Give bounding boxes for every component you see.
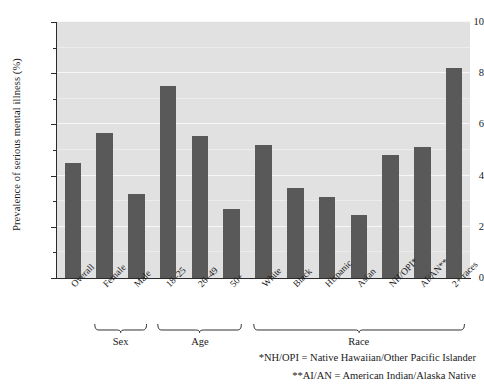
- group-brace: [157, 324, 242, 333]
- y-axis-tick-label: 8: [438, 68, 484, 78]
- bar-series: [57, 22, 470, 278]
- y-axis-tick-label: 6: [438, 119, 484, 129]
- y-axis-tick-label: 4: [438, 171, 484, 181]
- y-axis-tick: [51, 22, 56, 23]
- y-axis-tick-minor: [53, 252, 56, 253]
- footnote-nh-opi: *NH/OPI = Native Hawaiian/Other Pacific …: [259, 352, 476, 363]
- footnote-ai-an: **AI/AN = American Indian/Alaska Native: [292, 370, 476, 381]
- bar: [414, 147, 431, 278]
- y-axis-tick-minor: [53, 201, 56, 202]
- bar: [319, 197, 336, 278]
- group-brace: [94, 324, 147, 333]
- bar: [160, 86, 177, 278]
- y-axis-tick: [51, 227, 56, 228]
- y-axis-tick-minor: [53, 150, 56, 151]
- bar: [255, 145, 272, 278]
- group-brace: [253, 324, 465, 333]
- y-axis-tick-minor: [53, 48, 56, 49]
- bar: [287, 188, 304, 278]
- bar: [192, 136, 209, 278]
- bar: [351, 215, 368, 278]
- bar: [223, 209, 240, 278]
- y-axis-tick: [51, 176, 56, 177]
- bar: [382, 155, 399, 278]
- y-axis-label: Prevalence of serious mental illness (%): [11, 25, 22, 265]
- bar-chart: 0246810 Prevalence of serious mental ill…: [0, 0, 484, 392]
- y-axis-tick-label: 10: [438, 17, 484, 27]
- y-axis-tick: [51, 124, 56, 125]
- y-axis-tick: [51, 278, 56, 279]
- bar: [128, 194, 145, 278]
- plot-area: [57, 22, 470, 278]
- y-axis-tick-minor: [53, 99, 56, 100]
- y-axis-tick-label: 2: [438, 222, 484, 232]
- y-axis-tick: [51, 73, 56, 74]
- group-label: Race: [299, 336, 419, 347]
- y-axis-line: [56, 22, 57, 279]
- bar: [65, 163, 82, 278]
- group-label: Age: [140, 336, 260, 347]
- bar: [96, 133, 113, 278]
